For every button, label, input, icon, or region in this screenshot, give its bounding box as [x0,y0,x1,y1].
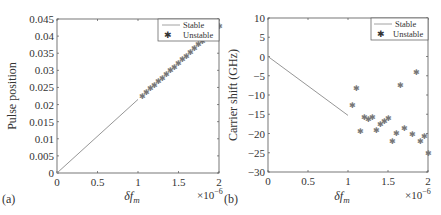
unstable-point: ✱ [393,129,400,138]
y-axis-label-a: Pulse position [5,62,19,130]
x-tick-label: 0 [54,176,60,188]
panel-label-b: (b) [224,192,238,206]
unstable-point: ✱ [389,137,396,146]
y-tick-label: 10 [254,12,266,24]
legend-b: Stable ✱ Unstable [371,18,428,40]
star-marker-icon: ✱ [164,30,172,40]
y-tick-label: 0.025 [29,81,54,93]
unstable-point: ✱ [357,127,364,136]
unstable-point: ✱ [385,114,392,123]
unstable-point: ✱ [349,101,356,110]
y-tick-label: 0.035 [29,47,54,59]
series-b: ✱✱✱✱✱✱✱✱✱✱✱✱✱✱✱✱✱✱✱ [268,57,432,158]
legend-unstable-label: Unstable [393,29,423,39]
legend-stable-label: Stable [183,20,204,30]
y-tick-label: 0.015 [29,116,54,128]
panel-b-chart: 00.511.52 −30−25−20−15−10−50510 ✱✱✱✱✱✱✱✱… [224,12,432,206]
y-tick-label: 0.02 [35,99,54,111]
y-tick-label: −25 [248,147,266,159]
unstable-point: ✱ [413,68,420,77]
y-tick-label: −20 [248,128,266,140]
x-tick-label: 1 [135,176,141,188]
x-multiplier-b: ×10−6 [405,187,431,201]
x-tick-label: 2 [425,175,431,187]
unstable-point: ✱ [353,84,360,93]
x-tick-label: 0 [265,175,271,187]
legend-a: Stable ✱ Unstable [158,19,219,41]
unstable-point: ✱ [421,132,428,141]
y-tick-label: −5 [253,70,265,82]
series-a: ✱✱✱✱✱✱✱✱✱✱✱✱✱✱✱✱✱✱✱✱ [57,22,223,173]
y-tick-label: 0.045 [29,13,54,25]
legend-stable-label: Stable [395,19,416,29]
y-tick-label: 0.01 [35,133,54,145]
unstable-point: ✱ [401,124,408,133]
legend-unstable-label: Unstable [183,30,213,40]
y-tick-label: −10 [248,89,266,101]
stable-line [268,57,348,116]
panel-label-a: (a) [2,192,15,206]
x-tick-label: 1.5 [172,176,186,188]
stable-line [57,99,138,173]
unstable-point: ✱ [397,81,404,90]
y-tick-label: −15 [248,108,266,120]
panel-a-chart: 00.511.52 00.0050.010.0150.020.0250.030.… [2,13,223,206]
y-axis-label-b: Carrier shift (GHz) [226,49,240,141]
x-tick-label: 1.5 [381,175,395,187]
unstable-point: ✱ [369,113,376,122]
x-multiplier-a: ×10−6 [197,187,223,201]
unstable-point: ✱ [425,149,432,158]
star-marker-icon: ✱ [377,29,385,39]
plot-area-b [268,18,428,172]
y-tick-label: 5 [260,31,266,43]
y-tick-label: 0 [260,51,266,63]
y-tick-label: 0.03 [35,64,55,76]
y-tick-label: 0.005 [29,150,54,162]
x-axis-label-b: δfm [334,189,350,205]
x-axis-label-a: δfm [124,189,140,205]
y-tick-label: −30 [248,166,266,178]
unstable-point: ✱ [409,130,416,139]
x-tick-label: 1 [345,175,351,187]
y-tick-label: 0 [49,167,55,179]
x-tick-label: 0.5 [91,176,105,188]
figure: 00.511.52 00.0050.010.0150.020.0250.030.… [0,0,441,215]
x-tick-label: 0.5 [301,175,315,187]
y-tick-label: 0.04 [35,30,55,42]
